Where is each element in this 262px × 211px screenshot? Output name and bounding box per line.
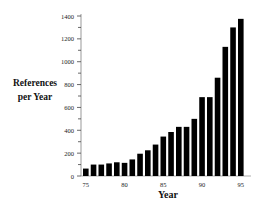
x-tick-label: 90 — [199, 181, 206, 188]
bars — [83, 19, 244, 176]
bar-chart: 0200400600800100012001400 7580859095 — [0, 0, 262, 211]
x-tick-label: 85 — [160, 181, 167, 188]
x-tick-label: 80 — [121, 181, 128, 188]
bar-92 — [215, 78, 221, 176]
y-axis-label-line-1: References — [6, 76, 64, 90]
bar-77 — [99, 165, 105, 176]
bar-85 — [161, 137, 167, 176]
y-tick-label: 1400 — [61, 13, 74, 20]
x-axis-label: Year — [138, 189, 198, 200]
x-tick-label: 95 — [238, 181, 245, 188]
y-tick-label: 400 — [64, 127, 74, 134]
bar-87 — [176, 127, 182, 176]
bar-82 — [137, 154, 143, 176]
bar-88 — [184, 127, 190, 176]
bar-78 — [106, 163, 112, 176]
bar-81 — [130, 159, 136, 176]
x-tick-label: 75 — [83, 181, 90, 188]
bar-89 — [192, 119, 198, 176]
bar-95 — [238, 19, 244, 176]
y-axis: 0200400600800100012001400 — [61, 13, 81, 180]
y-axis-label: References per Year — [6, 76, 64, 104]
y-tick-label: 200 — [64, 150, 74, 157]
bar-90 — [199, 97, 205, 176]
bar-91 — [207, 97, 213, 176]
bar-84 — [153, 145, 159, 176]
bar-79 — [114, 162, 120, 176]
bar-76 — [91, 165, 97, 176]
bar-75 — [83, 169, 89, 176]
bar-93 — [223, 47, 229, 176]
x-axis: 7580859095 — [81, 176, 251, 188]
bar-80 — [122, 163, 128, 176]
y-tick-label: 0 — [71, 173, 74, 180]
bar-86 — [168, 132, 174, 176]
bar-83 — [145, 150, 151, 176]
bar-94 — [230, 27, 236, 176]
y-tick-label: 800 — [64, 81, 74, 88]
y-axis-label-line-2: per Year — [6, 90, 64, 104]
y-tick-label: 1000 — [61, 58, 74, 65]
y-tick-label: 1200 — [61, 35, 74, 42]
y-tick-label: 600 — [64, 104, 74, 111]
